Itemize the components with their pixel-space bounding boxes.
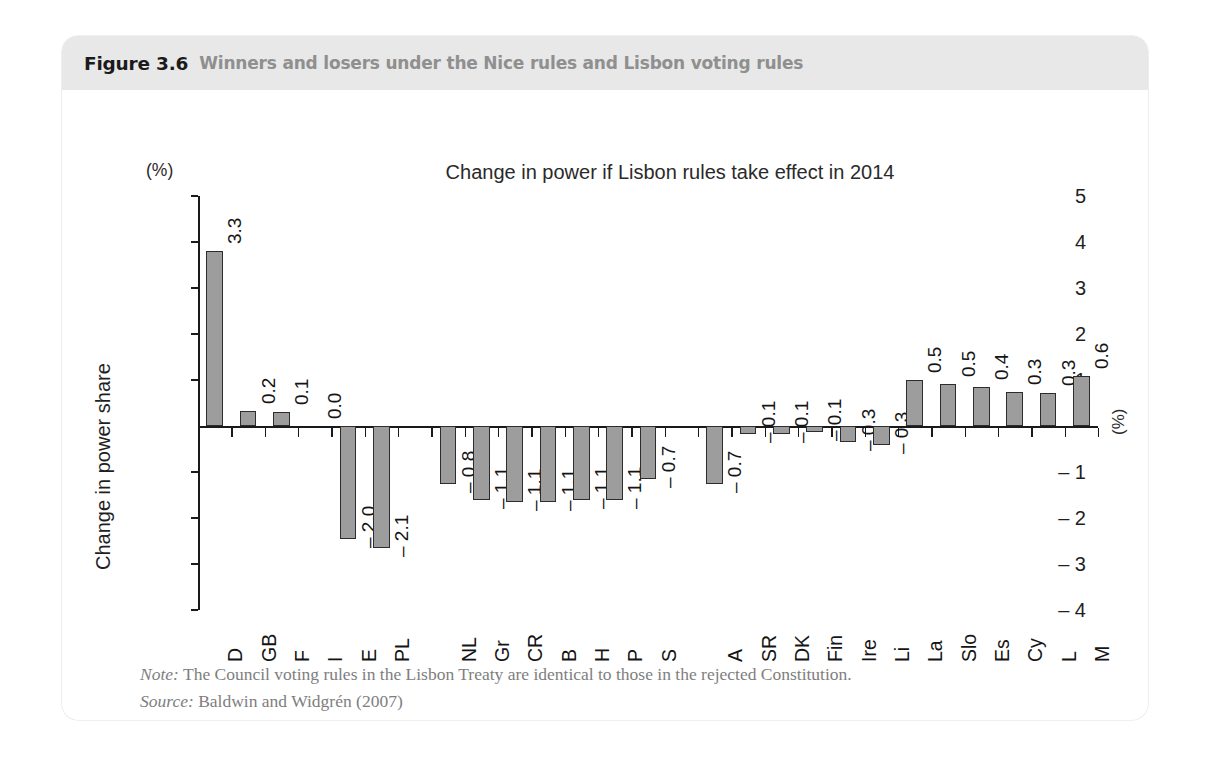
y-axis-tick-label: – 4 [1058,600,1086,620]
x-axis-category-label: GB [258,634,281,662]
y-axis-tick [191,379,198,381]
x-axis-tick [598,428,599,437]
y-axis-tick-label: – 1 [1058,462,1086,482]
x-axis-tick [465,428,466,437]
x-axis-tick [631,428,632,437]
bar-value-label: 0.1 [291,379,313,405]
bar [1073,376,1090,426]
bar-value-label: 0.6 [1091,343,1113,369]
x-axis-tick [998,428,999,437]
y-axis-title: Change in power share [92,363,115,570]
x-axis-tick [298,428,299,437]
y-axis-tick [191,609,198,611]
bar [506,426,523,502]
bar [640,426,657,479]
y-axis-tick [191,517,198,519]
x-axis-category-label: D [224,648,247,662]
x-axis-category-label: La [924,640,947,662]
bar [873,426,890,445]
bar-value-label: 0.5 [958,350,980,376]
x-axis-tick [665,428,666,437]
bar [340,426,357,539]
x-axis-category-label: Cy [1024,638,1047,662]
bar-value-label: 0.3 [1024,358,1046,384]
figure-header: Figure 3.6 Winners and losers under the … [62,36,1148,90]
bar [540,426,557,502]
x-axis-category-label: M [1091,646,1114,662]
x-axis-tick [731,428,732,437]
chart-plot-area: (%) Change in power if Lisbon rules take… [62,90,1148,720]
y-axis-tick [191,241,198,243]
x-axis-tick [365,428,366,437]
x-axis-category-label: Ire [858,639,881,662]
bar [906,380,923,426]
x-axis-category-label: CR [524,634,547,662]
chart-title: Change in power if Lisbon rules take eff… [62,161,1148,184]
bar [240,411,257,426]
bar [206,251,223,426]
x-axis-category-label: SR [758,635,781,662]
source-text: Baldwin and Widgrén (2007) [194,691,403,711]
bar [440,426,457,484]
x-axis-category-label: Li [891,647,914,662]
x-axis-category-label: Slo [958,634,981,662]
x-axis-tick [265,428,266,437]
bar [1040,393,1057,426]
chart-axes: 54321– 1– 2– 3– 4 3.30.20.10.0– 2.0– 2.1… [198,196,1098,610]
bar [573,426,590,500]
x-axis-category-label: Gr [491,640,514,662]
x-axis-tick [698,428,699,437]
x-axis-tick [398,428,399,437]
bar-value-label: 0.2 [258,377,280,403]
y-axis-tick-label: 3 [1075,278,1086,298]
x-axis-tick [531,428,532,437]
x-axis-tick [231,428,232,437]
bar [973,387,990,426]
y-axis-line [198,196,200,610]
y-axis-tick-label: 4 [1075,232,1086,252]
bar [840,426,857,442]
bar [373,426,390,548]
bar-value-label: 0.5 [924,347,946,373]
bar [706,426,723,484]
bar-value-label: – 0.7 [658,446,680,488]
bar [940,384,957,426]
figure-number-label: Figure 3.6 [84,53,188,74]
source-line: Source: Baldwin and Widgrén (2007) [140,688,1130,715]
bar-value-label: – 0.1 [758,401,780,443]
x-axis-tick [331,428,332,437]
bar [806,426,823,432]
x-axis-category-label: Es [991,639,1014,662]
bar-value-label: – 0.7 [724,450,746,492]
bar [273,412,290,426]
right-axis-unit-label: (%) [1109,409,1129,435]
bar [1006,392,1023,427]
x-axis-tick [198,428,199,437]
x-axis-tick [965,428,966,437]
y-axis-tick [191,563,198,565]
bar-value-label: – 0.1 [791,401,813,443]
note-prefix: Note: [140,664,179,684]
y-axis-tick-label: – 2 [1058,508,1086,528]
x-axis-tick [431,428,432,437]
x-axis-category-label: DK [791,635,814,662]
bar-value-label: 3.3 [224,218,246,244]
y-axis-tick [191,333,198,335]
x-axis-category-label: PL [391,638,414,662]
x-axis-category-label: NL [458,637,481,662]
x-axis-tick [931,428,932,437]
y-axis-tick-label: 2 [1075,324,1086,344]
x-axis-tick [1098,428,1099,437]
x-axis-tick [498,428,499,437]
y-axis-tick-label: – 3 [1058,554,1086,574]
note-line: Note: The Council voting rules in the Li… [140,661,1130,688]
x-axis-tick [1065,428,1066,437]
y-axis-tick [191,195,198,197]
x-axis-category-label: H [591,648,614,662]
y-axis-tick [191,471,198,473]
bar [773,426,790,434]
bar-value-label: 0.4 [991,353,1013,379]
x-axis-category-label: Fin [824,635,847,662]
y-axis-tick-label: 5 [1075,186,1086,206]
figure-notes: Note: The Council voting rules in the Li… [140,661,1130,715]
